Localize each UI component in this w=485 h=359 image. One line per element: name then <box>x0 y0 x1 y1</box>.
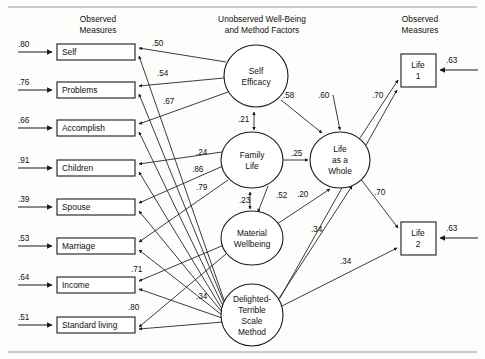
latent-node-life-as-a-whole[interactable]: Life as a Whole <box>310 132 370 188</box>
coef-family-life-material-wb-cov: .23 <box>239 196 251 205</box>
latent-node-life-as-a-whole-line2: as a <box>332 155 348 165</box>
coef-material-wb-income: .71 <box>131 265 143 274</box>
latent-node-dt-method-line2: Terrible <box>238 305 266 315</box>
structural-path-self-efficacy-life-whole <box>281 100 322 133</box>
loading-path-self-efficacy-accomplish <box>139 92 228 124</box>
observed-box-problems[interactable]: Problems <box>57 82 135 98</box>
dt-path-income <box>139 289 222 318</box>
latent-node-material-wellbeing[interactable]: Material Wellbeing <box>221 211 283 265</box>
header-right-line2: Measures <box>402 25 439 35</box>
observed-box-standard-living[interactable]: Standard living <box>57 317 135 333</box>
latent-node-family-life[interactable]: Family Life <box>221 132 283 188</box>
observed-box-life1-line1: Life <box>411 60 425 70</box>
loading-paths-family-life <box>139 152 228 242</box>
residual-value-self: .80 <box>18 40 30 49</box>
observed-box-accomplish-label: Accomplish <box>62 123 105 133</box>
latent-node-material-wellbeing-shape[interactable] <box>221 211 283 265</box>
residual-arrows-right: .63 .63 <box>440 56 478 238</box>
header-observed-right: Observed Measures <box>402 14 439 35</box>
coef-family-life-children: .24 <box>196 148 208 157</box>
coef-self-efficacy-family-life: .21 <box>238 115 250 124</box>
structural-path-dt-life-whole <box>278 186 352 300</box>
residual-value-marriage: .53 <box>18 234 30 243</box>
coef-self-efficacy-problems: .54 <box>157 69 169 78</box>
header-center-line2: and Method Factors <box>225 25 299 35</box>
observed-box-life1-line2: 1 <box>416 71 421 81</box>
header-observed-left: Observed Measures <box>80 14 117 35</box>
header-left-line2: Measures <box>80 25 117 35</box>
observed-box-accomplish[interactable]: Accomplish <box>57 120 135 136</box>
dt-path-problems <box>139 94 224 303</box>
coef-dt-method-loading: .34 <box>196 292 208 301</box>
coef-material-wb-standard-living: .80 <box>128 303 140 312</box>
observed-box-self-label: Self <box>62 47 77 57</box>
loading-paths-dt-method <box>139 56 224 329</box>
observed-box-marriage[interactable]: Marriage <box>57 238 135 254</box>
residual-value-children: .91 <box>18 156 30 165</box>
observed-boxes-right: Life 1 Life 2 <box>401 54 436 255</box>
sem-path-diagram: Observed Measures Unobserved Well-Being … <box>0 0 485 359</box>
coef-life-whole-life2: .70 <box>374 188 386 197</box>
latent-node-self-efficacy-line1: Self <box>249 66 264 76</box>
observed-box-self[interactable]: Self <box>57 44 135 60</box>
observed-box-children-label: Children <box>62 163 94 173</box>
structural-path-family-life-material-wb-directed <box>258 186 268 212</box>
latent-node-dt-method-line4: Method <box>238 327 266 337</box>
latent-node-dt-method-line3: Scale <box>242 316 263 326</box>
coef-disturbance-life-whole: .60 <box>318 91 330 100</box>
residual-value-standard-living: .51 <box>18 313 30 322</box>
residual-value-life2: .63 <box>446 224 458 233</box>
latent-node-family-life-line2: Life <box>245 161 259 171</box>
latent-node-self-efficacy-line2: Efficacy <box>241 77 271 87</box>
residual-arrows-left <box>18 52 52 325</box>
observed-box-income[interactable]: Income <box>57 277 135 293</box>
observed-box-marriage-label: Marriage <box>62 241 95 251</box>
coef-self-efficacy-life-whole: .58 <box>283 91 295 100</box>
dt-path-spouse <box>139 211 222 312</box>
structural-path-life-whole-life2 <box>360 178 398 228</box>
loading-path-self-efficacy-self <box>139 48 226 62</box>
latent-node-dt-method-line1: Delighted- <box>233 294 271 304</box>
residual-value-life1: .63 <box>446 56 458 65</box>
latent-node-material-wellbeing-line2: Wellbeing <box>234 239 271 249</box>
latent-node-self-efficacy-shape[interactable] <box>224 45 288 107</box>
latent-node-self-efficacy[interactable]: Self Efficacy <box>224 45 288 107</box>
coef-family-life-spouse: .86 <box>192 165 204 174</box>
residual-values-left: .80 .76 .66 .91 .39 .53 .64 .51 <box>18 40 30 322</box>
loading-path-material-wb-standard-living <box>139 254 226 327</box>
observed-box-problems-label: Problems <box>62 85 97 95</box>
structural-path-life-whole-life1 <box>358 80 398 141</box>
latent-node-life-as-a-whole-line3: Whole <box>328 166 352 176</box>
disturbance-path-life-whole <box>333 95 340 130</box>
observed-box-spouse-label: Spouse <box>62 202 91 212</box>
latent-node-family-life-shape[interactable] <box>221 132 283 188</box>
loading-paths-self-efficacy <box>139 48 228 124</box>
observed-box-life1[interactable]: Life 1 <box>401 54 436 87</box>
observed-box-spouse[interactable]: Spouse <box>57 199 135 215</box>
loading-path-family-life-marriage <box>139 180 228 242</box>
observed-boxes-left: Self Problems Accomplish Children Spouse… <box>57 44 135 333</box>
observed-box-life2-line1: Life <box>411 228 425 238</box>
dt-path-standard-living <box>139 322 223 329</box>
observed-box-life2-line2: 2 <box>416 239 421 249</box>
latent-node-life-as-a-whole-line1: Life <box>333 144 347 154</box>
observed-box-income-label: Income <box>62 280 90 290</box>
latent-node-dt-method[interactable]: Delighted- Terrible Scale Method <box>221 284 283 346</box>
header-right-line1: Observed <box>402 14 439 24</box>
coef-self-efficacy-self: .50 <box>152 39 164 48</box>
diagram-canvas: Observed Measures Unobserved Well-Being … <box>0 0 485 359</box>
coef-life-whole-life1: .70 <box>372 91 384 100</box>
header-unobserved-center: Unobserved Well-Being and Method Factors <box>218 14 306 35</box>
header-left-line1: Observed <box>80 14 117 24</box>
coef-dt-life-whole: .34 <box>311 225 323 234</box>
residual-value-spouse: .39 <box>18 195 30 204</box>
latent-node-material-wellbeing-line1: Material <box>237 228 267 238</box>
coef-family-life-material-wb: .52 <box>276 191 288 200</box>
observed-box-standard-living-label: Standard living <box>62 320 118 330</box>
header-center-line1: Unobserved Well-Being <box>218 14 306 24</box>
coef-material-wb-life-whole: .20 <box>297 190 309 199</box>
observed-box-children[interactable]: Children <box>57 160 135 176</box>
loading-path-self-efficacy-problems <box>139 78 224 86</box>
observed-box-life2[interactable]: Life 2 <box>401 222 436 255</box>
latent-node-family-life-line1: Family <box>240 150 265 160</box>
